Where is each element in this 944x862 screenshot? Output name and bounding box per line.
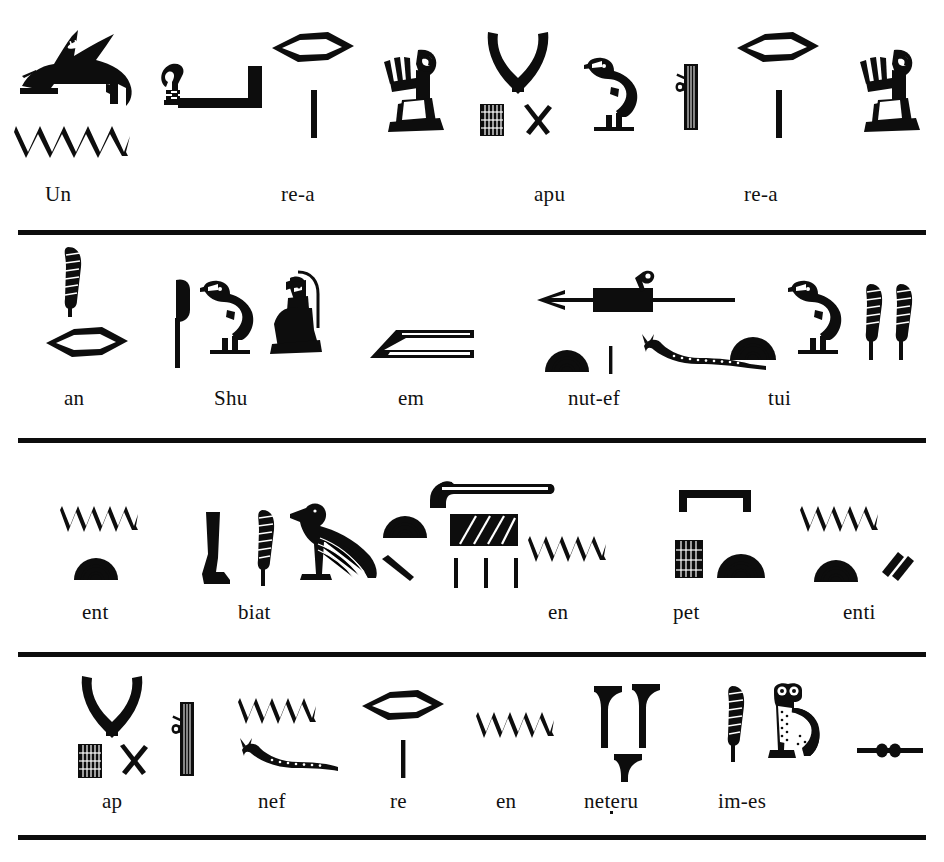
glyph-group-re-a-2 (735, 30, 825, 160)
mouth-and-stroke-icon (735, 30, 825, 160)
glyph-group-nef (238, 694, 338, 784)
feather-icon (718, 684, 752, 764)
glyph-group-biat-stroke (380, 555, 420, 583)
glyph-group-an (44, 245, 154, 370)
water-ripple-icon (528, 532, 614, 566)
glyph-group-ap-horns (78, 672, 164, 750)
glyph-group-folded-cloth (855, 738, 925, 764)
row-1-label-2: re-a (281, 182, 315, 207)
scribe-palette-icon (168, 700, 202, 780)
row-3-label-3: en (548, 600, 568, 625)
row-4-label-1: ap (102, 789, 122, 814)
stool-and-crossed-sticks-icon (478, 100, 566, 140)
kneeling-god-icon (268, 268, 330, 364)
sky-stool-loaf-icon (655, 488, 765, 588)
diagonal-stroke-icon (380, 555, 420, 583)
hare-and-water-icon (14, 14, 142, 164)
glyph-group-re-a-1 (270, 30, 360, 160)
mouth-and-stroke-icon (360, 688, 454, 782)
row-2-label-1: an (64, 386, 84, 411)
mouth-and-stroke-icon (270, 30, 360, 160)
glyph-group-quail-chick-3 (786, 278, 848, 360)
row-4-label-2: nef (258, 789, 286, 814)
feather-and-mouth-icon (44, 245, 154, 370)
glyph-group-vulture (288, 500, 380, 590)
row-2-label-5: tui (768, 386, 791, 411)
glyph-group-ap-palette (168, 700, 202, 780)
row-2-label-4: nut-ef (568, 386, 620, 411)
glyph-group-quail-chick-1 (582, 55, 644, 135)
double-feather-icon (856, 282, 922, 362)
owl-forearm-sign-icon (368, 328, 478, 370)
leg-icon (200, 510, 234, 588)
glyph-group-adoring-man-1 (372, 48, 450, 136)
row-rule-2 (18, 438, 926, 443)
vulture-icon (288, 500, 380, 590)
hieroglyph-plate: Un re-a apu re-a (0, 0, 944, 862)
quail-chick-icon (582, 55, 644, 135)
netjer-flags-icon (592, 682, 686, 782)
row-3-label-4: pet (673, 600, 700, 625)
row-3-label-2: biat (238, 600, 271, 625)
quail-chick-icon (786, 278, 848, 360)
shepherds-crook-icon (160, 60, 265, 115)
glyph-group-ent (60, 502, 150, 592)
row-3-label-5: enti (843, 600, 876, 625)
glyph-group-leg (200, 510, 234, 588)
water-ripple-icon (476, 708, 562, 742)
glyph-group-shu-reed (168, 278, 198, 370)
glyph-group-un (14, 14, 142, 164)
glyph-group-double-feather (856, 282, 922, 362)
owl-icon (760, 682, 826, 768)
feather-icon (248, 508, 282, 588)
water-and-loaf-icon (60, 502, 150, 592)
stool-and-crossed-sticks-icon (76, 740, 164, 782)
adoring-man-icon (372, 48, 450, 136)
glyph-group-neteru (592, 682, 686, 782)
row-1-label-1: Un (45, 182, 71, 207)
glyph-group-owl (760, 682, 826, 768)
scribe-palette-icon (672, 62, 706, 134)
glyph-group-ap-stool-cross (76, 740, 164, 782)
row-1-label-3: apu (534, 182, 565, 207)
row-rule-4 (18, 835, 926, 840)
glyph-group-pet (655, 488, 765, 588)
glyph-group-en-water-2 (476, 708, 562, 742)
glyph-group-em (368, 328, 478, 370)
glyph-group-feather-2 (248, 508, 282, 588)
row-4-label-5: neteru (584, 789, 638, 814)
loaf-icon (726, 330, 780, 364)
water-and-viper-icon (238, 694, 338, 784)
glyph-group-tui-loaf (726, 330, 780, 364)
glyph-group-quail-chick-2 (198, 278, 260, 360)
glyph-group-adoring-man-2 (848, 48, 926, 136)
row-3-label-1: ent (82, 600, 109, 625)
glyph-group-enti (800, 502, 930, 592)
row-2-label-3: em (398, 386, 424, 411)
glyph-group-en-water-1 (528, 532, 614, 566)
horns-icon (78, 672, 164, 750)
row-rule-3 (18, 652, 926, 657)
glyph-group-im-es-feather (718, 684, 752, 764)
adoring-man-icon (848, 48, 926, 136)
glyph-group-stool-cross (478, 100, 566, 140)
row-4-label-6: im-es (718, 789, 766, 814)
row-4-label-4: en (496, 789, 516, 814)
row-rule-1 (18, 230, 926, 235)
row-1-label-4: re-a (744, 182, 778, 207)
folded-cloth-icon (855, 738, 925, 764)
glyph-group-scribe-palette-1 (672, 62, 706, 134)
glyph-group-crook-bar (160, 60, 265, 115)
reed-flag-icon (168, 278, 198, 370)
water-loaf-doublestroke-icon (800, 502, 930, 592)
glyph-group-kneeling-god (268, 268, 330, 364)
quail-chick-icon (198, 278, 260, 360)
row-4-label-3: re (390, 789, 407, 814)
row-2-label-2: Shu (214, 386, 248, 411)
glyph-group-re (360, 688, 454, 782)
